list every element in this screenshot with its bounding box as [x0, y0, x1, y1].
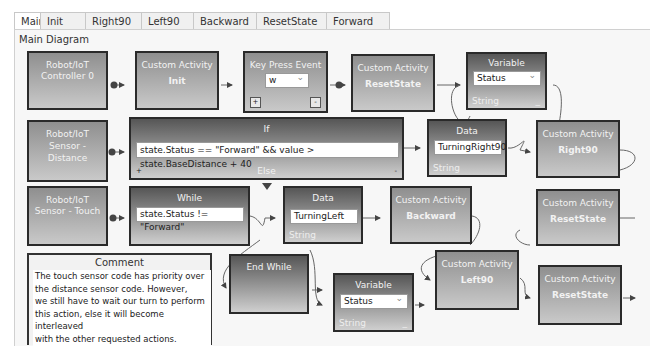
- node-left90[interactable]: Custom Activity Left90: [435, 250, 519, 310]
- data-value-input[interactable]: TurningLeft: [290, 209, 358, 224]
- add-button[interactable]: +: [250, 97, 261, 108]
- node-backward[interactable]: Custom Activity Backward: [390, 186, 472, 244]
- node-distance-sensor[interactable]: Robot/IoT Sensor - Distance: [27, 120, 108, 182]
- key-select[interactable]: w: [265, 73, 309, 88]
- node-resetstate-1[interactable]: Custom Activity ResetState: [351, 54, 435, 112]
- node-if[interactable]: If state.Status == "Forward" && value > …: [129, 117, 404, 180]
- if-condition-input[interactable]: state.Status == "Forward" && value > sta…: [136, 142, 399, 158]
- node-key-press-event[interactable]: Key Press Event w + -: [243, 51, 328, 113]
- node-end-while[interactable]: End While: [229, 254, 309, 314]
- if-plus[interactable]: +: [136, 167, 142, 175]
- data-value-input[interactable]: TurningRight90: [434, 140, 502, 155]
- node-resetstate-3[interactable]: Custom Activity ResetState: [538, 265, 622, 325]
- comment-box[interactable]: Comment The touch sensor code has priori…: [27, 253, 212, 345]
- while-condition-input[interactable]: state.Status != "Forward": [136, 207, 244, 222]
- node-variable-1[interactable]: Variable Status String _: [466, 52, 547, 110]
- node-data-2[interactable]: Data TurningLeft String: [283, 186, 363, 244]
- variable-select[interactable]: Status: [473, 71, 541, 86]
- node-touch-sensor[interactable]: Robot/IoT Sensor - Touch: [27, 186, 108, 246]
- node-init[interactable]: Custom Activity Init: [135, 51, 219, 110]
- remove-button[interactable]: -: [310, 97, 321, 108]
- node-data-1[interactable]: Data TurningRight90 String: [427, 119, 507, 177]
- node-variable-2[interactable]: Variable Status String _: [333, 273, 414, 332]
- if-minus[interactable]: -: [394, 167, 397, 175]
- node-right90[interactable]: Custom Activity Right90: [536, 120, 620, 178]
- variable-select[interactable]: Status: [340, 294, 408, 309]
- node-resetstate-2[interactable]: Custom Activity ResetState: [536, 189, 620, 246]
- node-while[interactable]: While state.Status != "Forward": [129, 186, 250, 246]
- node-controller[interactable]: Robot/IoT Controller 0: [27, 51, 108, 110]
- comment-body[interactable]: The touch sensor code has priority over …: [33, 270, 211, 347]
- comment-title: Comment: [29, 257, 210, 268]
